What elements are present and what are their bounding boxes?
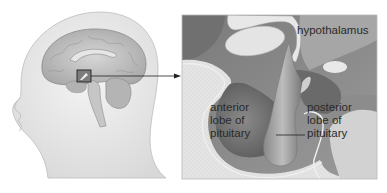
label-anterior-lobe: anterior lobe of pituitary: [210, 101, 250, 140]
label-posterior-lobe: posterior lobe of pituitary: [307, 101, 352, 140]
arrowhead-icon: [174, 74, 181, 79]
pituitary-diagram: hypothalamus anterior lobe of pituitary …: [0, 0, 387, 193]
label-hypothalamus: hypothalamus: [297, 24, 369, 37]
inset-panel: [182, 15, 377, 179]
